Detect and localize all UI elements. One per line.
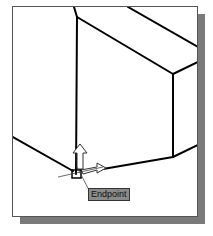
snap-tooltip: Endpoint [88,188,130,201]
model-geometry [13,7,198,217]
drawing-viewport[interactable] [12,6,198,217]
